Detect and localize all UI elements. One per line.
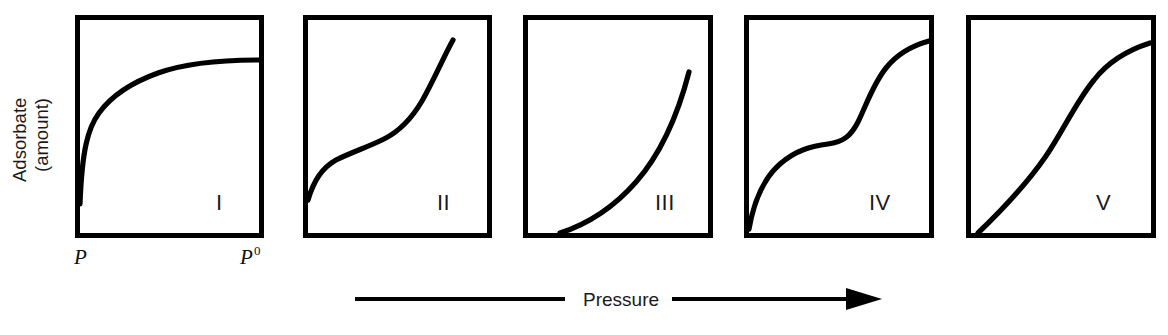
y-axis-label-line1: Adsorbate [9,98,30,182]
panel-label-1: I [216,190,223,215]
x-tick-end-superscript: 0 [254,243,261,258]
x-axis-ticks: P P 0 [73,243,261,269]
panel-isotherm-2[interactable]: II [306,18,490,236]
x-tick-end-label-group: P 0 [239,243,261,269]
panel-label-3: III [655,190,675,215]
panel-isotherm-3[interactable]: III [526,18,711,236]
panel-frame-1 [78,18,262,236]
y-axis-label-line2: (amount) [31,98,52,172]
panel-isotherm-5[interactable]: V [969,18,1154,236]
right-arrow-icon [846,288,882,310]
isotherm-figure: Adsorbate (amount) I P P 0 II III [0,0,1168,335]
panel-frame-5 [969,18,1154,236]
y-axis-label-group: Adsorbate (amount) [9,98,52,182]
x-axis-caption-group: Pressure [355,288,882,310]
panel-isotherm-4[interactable]: IV [747,18,932,236]
panel-frame-2 [306,18,490,236]
x-axis-caption-text: Pressure [583,289,659,310]
panel-label-4: IV [869,190,891,215]
panel-label-5: V [1096,190,1111,215]
panel-label-2: II [437,190,450,215]
x-tick-start-label: P [73,245,87,269]
x-tick-end-label: P [239,245,253,269]
figure-canvas: Adsorbate (amount) I P P 0 II III [0,0,1168,335]
panel-isotherm-1[interactable]: I [78,18,262,236]
